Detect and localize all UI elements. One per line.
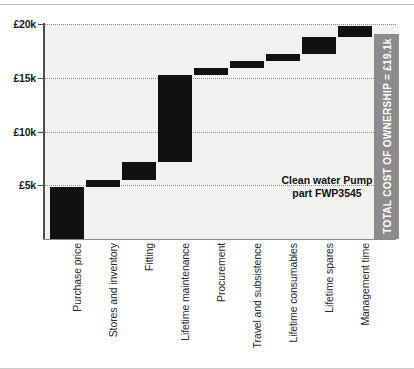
waterfall-bar[interactable]: [50, 187, 84, 239]
gridline-10000: [44, 132, 396, 133]
plot-area: £20k£15k£10k£5k TOTAL COST OF OWNERSHIP …: [44, 24, 396, 239]
waterfall-bar[interactable]: [194, 68, 228, 75]
category-label-group: Purchase priceStores and inventoryFittin…: [44, 243, 396, 369]
waterfall-bar[interactable]: [230, 61, 264, 68]
annotation-line-2: part FWP3545: [262, 187, 392, 200]
category-label: Purchase price: [71, 243, 83, 312]
y-tick-label-20000: £20k: [13, 18, 36, 30]
category-label: Stores and inventory: [107, 243, 119, 337]
waterfall-bar[interactable]: [122, 162, 156, 181]
y-tick-label-10000: £10k: [13, 126, 36, 138]
y-tick-label-5000: £5k: [19, 179, 36, 191]
category-label: Management time: [359, 243, 371, 326]
top-divider: [0, 4, 414, 5]
category-label: Lifetime spares: [323, 243, 335, 313]
category-label: Lifetime maintenance: [179, 243, 191, 341]
total-cost-bar[interactable]: TOTAL COST OF OWNERSHIP = £19.1k: [374, 34, 399, 239]
y-axis-line: [43, 23, 45, 240]
gridline-15000: [44, 78, 396, 79]
y-tick-label-15000: £15k: [13, 72, 36, 84]
category-label: Lifetime consumables: [287, 243, 299, 343]
category-label: Fitting: [143, 243, 155, 271]
annotation-line-1: Clean water Pump: [262, 174, 392, 187]
total-cost-label: TOTAL COST OF OWNERSHIP = £19.1k: [381, 39, 392, 234]
waterfall-bar[interactable]: [266, 54, 300, 61]
waterfall-chart-figure: £20k£15k£10k£5k TOTAL COST OF OWNERSHIP …: [0, 0, 414, 369]
x-axis-line: [43, 239, 396, 240]
category-label: Procurement: [215, 243, 227, 302]
waterfall-bar[interactable]: [302, 37, 336, 54]
waterfall-bar[interactable]: [158, 75, 192, 162]
waterfall-bar[interactable]: [338, 26, 372, 38]
category-label: Travel and subsistence: [251, 243, 263, 348]
chart-annotation: Clean water Pump part FWP3545: [262, 174, 392, 200]
waterfall-bar[interactable]: [86, 180, 120, 186]
